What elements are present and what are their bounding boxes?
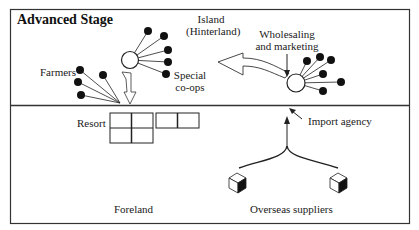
wholesaling-cluster: [287, 53, 345, 95]
island-label-line1: Island: [186, 13, 236, 25]
island-label-line2: (Hinterland): [186, 25, 236, 37]
down-hollow-arrow: [122, 72, 136, 104]
overseas-suppliers-label: Overseas suppliers: [250, 203, 333, 215]
island-hub-node: [122, 52, 139, 69]
island-label: Island (Hinterland): [186, 13, 236, 37]
diagram-title: Advanced Stage: [17, 12, 113, 28]
wholesaling-line1: Wholesaling: [255, 28, 319, 40]
supply-up-arrowhead: [284, 116, 290, 124]
supplier-cube-left: [229, 173, 246, 193]
special-coops-label: Special co-ops: [173, 69, 207, 93]
resort-label: Resort: [77, 117, 106, 129]
wholesaling-label: Wholesaling and marketing: [255, 28, 319, 52]
import-agency-pointer: [289, 108, 302, 119]
special-coops-line2: co-ops: [173, 81, 207, 93]
wholesaling-hub-node: [287, 74, 305, 92]
foreland-label: Foreland: [114, 203, 153, 215]
import-agency-label: Import agency: [308, 115, 372, 127]
special-coops-cluster: [122, 27, 173, 78]
special-coops-line1: Special: [173, 69, 207, 81]
supplier-cube-right: [330, 173, 347, 193]
farmers-cluster: [74, 66, 120, 103]
wholesaling-line2: and marketing: [255, 40, 319, 52]
resort-buildings: [110, 113, 199, 143]
farmers-label: Farmers: [40, 66, 76, 78]
curved-hollow-arrow: [218, 53, 289, 78]
supply-lines: [239, 122, 338, 168]
